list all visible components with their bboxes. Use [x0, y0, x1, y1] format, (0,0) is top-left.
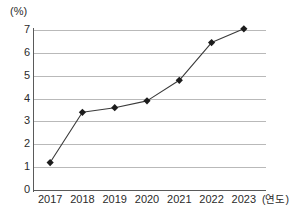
series-markers [47, 25, 248, 166]
data-series-layer [0, 0, 289, 220]
series-line [50, 29, 244, 163]
line-chart: (%) 01234567 201720182019202020212022202… [0, 0, 289, 220]
data-point-2017 [47, 159, 54, 166]
data-point-2020 [143, 97, 150, 104]
data-point-2018 [79, 109, 86, 116]
data-point-2019 [111, 104, 118, 111]
data-point-2023 [240, 25, 247, 32]
